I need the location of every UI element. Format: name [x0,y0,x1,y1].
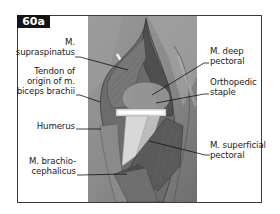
label-supraspinatus: M. supraspinatus [16,37,75,57]
label-brachiocephalicus: M. brachio- cephalicus [29,156,76,176]
label-line: supraspinatus [16,47,75,57]
anatomical-illustration [88,16,197,202]
label-line: cephalicus [29,166,76,176]
label-deep-pectoral: M. deep pectoral [210,46,244,66]
label-line: Orthopedic [210,77,257,87]
label-line: staple [210,87,257,97]
label-line: M. brachio- [29,156,76,166]
label-line: Humerus [37,121,75,131]
figure-number-badge: 60a [17,15,50,28]
shoulder-surgery-illustration [88,16,197,202]
label-line: biceps brachii [17,86,75,96]
label-superficial-pectoral: M. superficial pectoral [210,140,266,160]
label-orthopedic-staple: Orthopedic staple [210,77,257,97]
label-line: pectoral [210,56,244,66]
label-line: origin of m. [17,76,75,86]
label-line: pectoral [210,150,266,160]
label-humerus: Humerus [37,121,75,131]
label-line: M. [16,37,75,47]
label-biceps-tendon: Tendon of origin of m. biceps brachii [17,66,75,96]
label-line: M. superficial [210,140,266,150]
label-line: Tendon of [17,66,75,76]
label-line: M. deep [210,46,244,56]
